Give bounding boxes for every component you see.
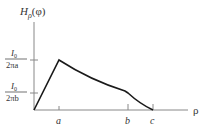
x-tick-label-c: c [150,115,155,126]
h-field-curve [34,60,153,110]
y-tick-label-b-denominator: 2πb [6,93,19,103]
y-axis-label: Hρ(φ) [19,5,46,20]
y-tick-label-a-numerator: I0 [10,48,17,59]
x-tick-label-a: a [56,115,61,126]
x-tick-label-b: b [125,115,130,126]
y-tick-label-b-numerator: I0 [10,81,17,92]
y-tick-label-a-denominator: 2πa [6,60,19,70]
field-plot: Hρ(φ) I0 2πa I0 2πb a b c ρ [0,0,204,131]
x-axis-label: ρ [193,104,199,116]
